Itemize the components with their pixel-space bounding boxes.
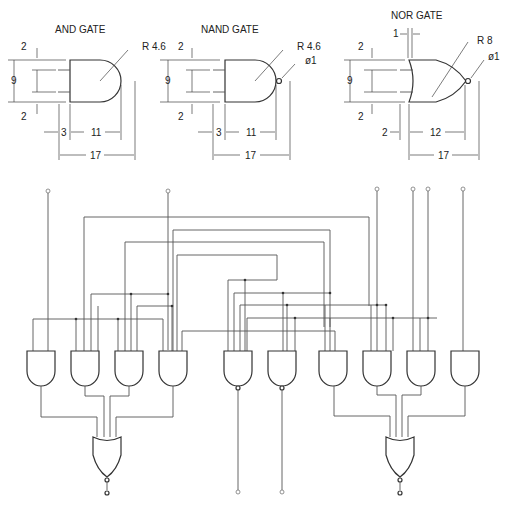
svg-text:9: 9 xyxy=(165,75,171,86)
and-gate-8 xyxy=(451,351,479,386)
svg-text:R 4.6: R 4.6 xyxy=(297,41,321,52)
svg-text:9: 9 xyxy=(347,75,353,86)
svg-text:3: 3 xyxy=(61,127,67,138)
gate-row xyxy=(27,351,479,390)
and-gate-7 xyxy=(407,351,435,386)
nor-gates xyxy=(93,437,414,495)
and-gate-1 xyxy=(27,351,55,386)
nor-gate-1 xyxy=(93,437,121,477)
nand-gate-2 xyxy=(268,351,296,386)
nor-gate-title: NOR GATE xyxy=(391,10,443,21)
and-gate-title: AND GATE xyxy=(55,24,106,35)
svg-text:17: 17 xyxy=(90,150,102,161)
and-gate-3 xyxy=(115,351,143,386)
svg-text:1: 1 xyxy=(393,28,399,39)
and-gate-2 xyxy=(71,351,99,386)
svg-text:11: 11 xyxy=(91,127,102,138)
nor-gate-symbol xyxy=(409,60,466,102)
and-gate-5 xyxy=(319,351,347,386)
and-gate-spec: AND GATE 2 9 2 R 4.6 3 11 17 xyxy=(8,24,166,161)
svg-text:ø1: ø1 xyxy=(488,51,500,62)
svg-text:2: 2 xyxy=(358,111,364,122)
svg-text:9: 9 xyxy=(11,75,17,86)
bus-wires xyxy=(33,217,437,351)
junctions xyxy=(75,279,430,321)
svg-text:3: 3 xyxy=(216,127,222,138)
nor-gate-2 xyxy=(386,437,414,477)
svg-text:2: 2 xyxy=(21,111,27,122)
svg-text:2: 2 xyxy=(358,41,364,52)
svg-text:R 4.6: R 4.6 xyxy=(142,41,166,52)
svg-text:17: 17 xyxy=(245,150,257,161)
svg-text:2: 2 xyxy=(178,41,184,52)
svg-text:17: 17 xyxy=(438,150,450,161)
nand-gate-1 xyxy=(224,351,252,386)
svg-text:R 8: R 8 xyxy=(477,35,493,46)
nand-gate-title: NAND GATE xyxy=(201,24,259,35)
and-gate-6 xyxy=(363,351,391,386)
svg-text:2: 2 xyxy=(382,127,388,138)
svg-text:2: 2 xyxy=(178,111,184,122)
input-pins xyxy=(46,187,465,351)
circuit xyxy=(27,187,479,495)
logic-diagram: AND GATE 2 9 2 R 4.6 3 11 17 NAND GATE 2… xyxy=(0,0,516,514)
nor-gate-spec: NOR GATE 2 9 2 1 R 8 ø1 2 12 17 xyxy=(344,10,500,161)
svg-text:ø1: ø1 xyxy=(305,55,317,66)
and-gate-4 xyxy=(159,351,187,386)
nand-gate-spec: NAND GATE 2 9 2 R 4.6 ø1 3 11 17 xyxy=(160,24,321,161)
svg-text:12: 12 xyxy=(430,127,442,138)
svg-text:2: 2 xyxy=(21,41,27,52)
svg-text:11: 11 xyxy=(246,127,257,138)
